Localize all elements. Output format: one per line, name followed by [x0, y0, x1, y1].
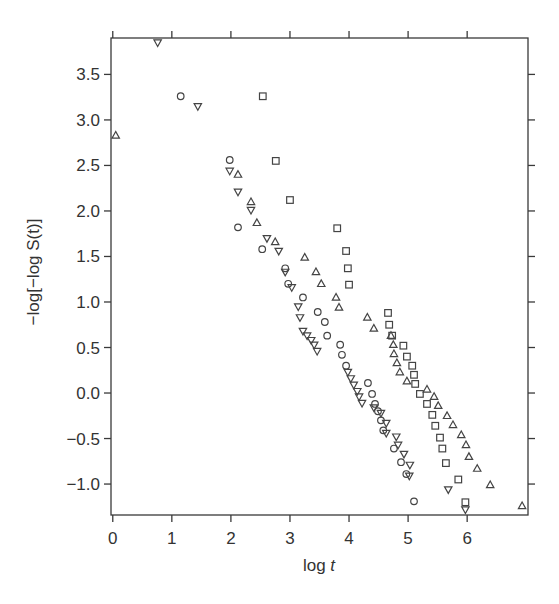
- triangle-down-marker: [154, 40, 161, 47]
- triangle-up-marker: [364, 314, 371, 321]
- triangle-up-marker: [112, 132, 119, 139]
- square-marker: [462, 499, 469, 506]
- square-marker: [400, 342, 407, 349]
- circle-marker: [300, 294, 307, 301]
- triangle-down-marker: [263, 236, 270, 243]
- circle-marker: [343, 362, 350, 369]
- circle-marker: [411, 498, 418, 505]
- circle-marker: [235, 224, 242, 231]
- triangle-down-marker: [383, 420, 390, 427]
- triangle-down-marker: [288, 285, 295, 292]
- triangle-down-marker: [393, 434, 400, 441]
- triangle-down-marker: [275, 248, 282, 255]
- triangle-up-marker: [430, 393, 437, 400]
- triangle-up-marker: [370, 324, 377, 331]
- triangle-down-marker: [462, 507, 469, 514]
- triangle-down-marker: [234, 189, 241, 196]
- triangle-down-marker: [296, 315, 303, 322]
- y-tick-label: 1.5: [76, 247, 100, 266]
- square-marker: [412, 381, 419, 388]
- square-marker: [437, 434, 444, 441]
- circle-marker: [322, 319, 329, 326]
- triangle-up-marker: [390, 350, 397, 357]
- square-marker: [334, 225, 341, 232]
- square-marker: [429, 412, 436, 419]
- square-marker: [386, 321, 393, 328]
- circle-marker: [337, 341, 344, 348]
- triangle-up-marker: [449, 421, 456, 428]
- y-tick-label: 0.0: [76, 384, 100, 403]
- scatter-chart: 0123456 −1.0−0.50.00.51.01.52.02.53.03.5…: [0, 0, 559, 604]
- y-tick-label: −0.5: [66, 430, 100, 449]
- y-tick-label: 2.5: [76, 156, 100, 175]
- x-tick-label: 3: [285, 529, 294, 548]
- triangle-up-marker: [247, 198, 254, 205]
- square-marker: [346, 281, 353, 288]
- triangle-up-marker: [318, 280, 325, 287]
- square-marker: [345, 265, 352, 272]
- circle-marker: [339, 351, 346, 358]
- circle-marker: [365, 380, 372, 387]
- triangle-up-marker: [253, 219, 260, 226]
- triangle-up-marker: [312, 268, 319, 275]
- triangle-up-marker: [403, 377, 410, 384]
- triangle-up-marker: [396, 368, 403, 375]
- y-axis-label: −log[−log S(t)]: [24, 219, 43, 326]
- triangle-up-marker: [518, 502, 525, 509]
- triangle-up-marker: [301, 253, 308, 260]
- square-marker: [424, 401, 431, 408]
- triangle-down-marker: [295, 304, 302, 311]
- triangle-down-marker: [194, 104, 201, 111]
- triangle-up-marker: [462, 441, 469, 448]
- square-marker: [443, 460, 450, 467]
- square-marker: [439, 445, 446, 452]
- x-tick-label: 6: [462, 529, 471, 548]
- triangle-down-marker: [344, 369, 351, 376]
- square-marker: [259, 93, 266, 100]
- triangle-down-marker: [358, 400, 365, 407]
- circle-marker: [259, 246, 266, 253]
- square-marker: [287, 197, 294, 204]
- y-tick-label: 3.5: [76, 65, 100, 84]
- x-tick-label: 0: [108, 529, 117, 548]
- y-axis-ticks: −1.0−0.50.00.51.01.52.02.53.03.5: [66, 65, 535, 494]
- triangle-down-marker: [445, 487, 452, 494]
- triangle-up-marker: [458, 431, 465, 438]
- x-tick-label: 2: [226, 529, 235, 548]
- triangle-up-marker: [486, 481, 493, 488]
- triangle-up-marker: [335, 304, 342, 311]
- data-markers: [112, 40, 526, 514]
- triangle-up-marker: [393, 359, 400, 366]
- triangle-down-marker: [350, 382, 357, 389]
- circle-marker: [369, 391, 376, 398]
- triangle-down-marker: [282, 269, 289, 276]
- triangle-down-marker: [355, 394, 362, 401]
- circle-marker: [226, 157, 233, 164]
- square-marker: [385, 310, 392, 317]
- triangle-down-marker: [226, 168, 233, 175]
- square-marker: [272, 158, 279, 165]
- triangle-down-marker: [299, 328, 306, 335]
- series-circle: [177, 93, 417, 505]
- square-marker: [411, 372, 418, 379]
- triangle-down-marker: [400, 451, 407, 458]
- triangle-down-marker: [310, 342, 317, 349]
- circle-marker: [314, 309, 321, 316]
- plot-border: [111, 38, 528, 515]
- x-tick-label: 4: [344, 529, 353, 548]
- x-axis-ticks: 0123456: [108, 31, 472, 548]
- square-marker: [409, 362, 416, 369]
- triangle-down-marker: [303, 333, 310, 340]
- x-axis-label: log t: [303, 556, 336, 575]
- series-square: [259, 93, 468, 506]
- y-tick-label: −1.0: [66, 475, 100, 494]
- y-tick-label: 2.0: [76, 202, 100, 221]
- triangle-down-marker: [313, 348, 320, 355]
- triangle-down-marker: [406, 462, 413, 469]
- triangle-up-marker: [272, 238, 279, 245]
- plot-frame: [111, 38, 528, 515]
- circle-marker: [324, 332, 331, 339]
- square-marker: [404, 353, 411, 360]
- circle-marker: [398, 459, 405, 466]
- y-tick-label: 3.0: [76, 111, 100, 130]
